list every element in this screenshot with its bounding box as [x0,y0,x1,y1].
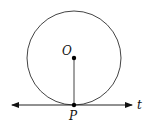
label-o: O [62,44,72,58]
center-point-o [72,56,76,60]
circle-tangent-diagram: O P t [0,0,152,127]
tangent-point-p [72,103,76,107]
label-t: t [137,98,142,112]
label-p: P [68,109,78,123]
